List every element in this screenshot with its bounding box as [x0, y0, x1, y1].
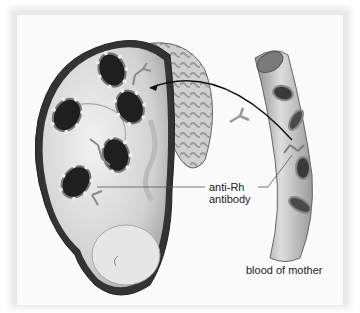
label-anti-rh: anti-Rh — [209, 181, 244, 193]
maternal-blood-vessel — [253, 47, 313, 261]
label-antibody: antibody — [209, 193, 251, 205]
antibody-icon — [230, 108, 249, 122]
label-blood-of-mother: blood of mother — [246, 264, 322, 276]
